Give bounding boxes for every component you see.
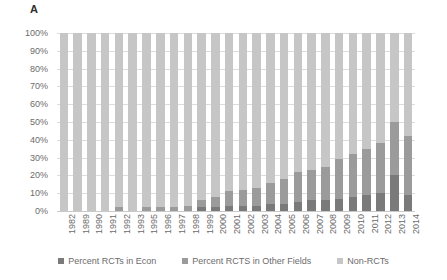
y-axis-tick: 20% <box>30 171 48 180</box>
x-axis-tick: 2014 <box>412 214 421 234</box>
bar-segment <box>211 207 220 211</box>
x-axis-tick-slot: 1999 <box>195 213 209 253</box>
bar-slot <box>332 33 346 211</box>
bar-segment <box>156 33 165 207</box>
x-axis-tick-slot: 2006 <box>291 213 305 253</box>
stacked-bar[interactable] <box>211 33 220 211</box>
stacked-bar[interactable] <box>376 33 385 211</box>
stacked-bar[interactable] <box>184 33 193 211</box>
bar-segment <box>349 33 358 154</box>
stacked-bar[interactable] <box>170 33 179 211</box>
bar-segment <box>142 33 151 207</box>
bar-segment <box>280 33 289 179</box>
stacked-bar[interactable] <box>197 33 206 211</box>
bar-slot <box>153 33 167 211</box>
y-axis-labels: 100%90%80%70%60%50%40%30%20%10%0% <box>0 33 53 211</box>
stacked-bar[interactable] <box>321 33 330 211</box>
stacked-bar[interactable] <box>390 33 399 211</box>
bar-segment <box>376 33 385 143</box>
bar-slot <box>181 33 195 211</box>
legend-label: Non-RCTs <box>347 256 389 266</box>
bar-segment <box>335 199 344 211</box>
stacked-bar[interactable] <box>115 33 124 211</box>
stacked-bar[interactable] <box>142 33 151 211</box>
bar-segment <box>252 206 261 211</box>
bar-segment <box>321 167 330 201</box>
x-axis-tick-slot: 2009 <box>332 213 346 253</box>
bar-segment <box>362 195 371 211</box>
x-axis-tick-slot: 1992 <box>112 213 126 253</box>
bar-segment <box>404 136 413 195</box>
stacked-bar[interactable] <box>73 33 82 211</box>
legend-item[interactable]: Non-RCTs <box>337 256 389 266</box>
bar-segment <box>239 33 248 190</box>
bar-slot <box>401 33 415 211</box>
bar-slot <box>85 33 99 211</box>
stacked-bar[interactable] <box>225 33 234 211</box>
bar-segment <box>197 33 206 200</box>
bar-segment <box>294 202 303 211</box>
bar-segment <box>390 175 399 211</box>
bar-slot <box>140 33 154 211</box>
stacked-bar[interactable] <box>87 33 96 211</box>
stacked-bar[interactable] <box>101 33 110 211</box>
stacked-bar[interactable] <box>128 33 137 211</box>
bar-segment <box>307 170 316 200</box>
x-axis-tick-slot: 1996 <box>153 213 167 253</box>
legend-swatch-icon <box>58 258 64 264</box>
stacked-bar[interactable] <box>252 33 261 211</box>
bar-segment <box>280 204 289 211</box>
bar-segment <box>404 33 413 136</box>
bar-segment <box>349 154 358 197</box>
panel-label: A <box>30 3 38 15</box>
bar-segment <box>376 193 385 211</box>
bar-slot <box>250 33 264 211</box>
bar-segment <box>142 207 151 211</box>
bar-slot <box>126 33 140 211</box>
bar-segment <box>280 179 289 204</box>
bar-segment <box>404 195 413 211</box>
stacked-bar[interactable] <box>362 33 371 211</box>
legend-item[interactable]: Percent RCTs in Econ <box>58 256 156 266</box>
stacked-bar[interactable] <box>404 33 413 211</box>
chart-legend: Percent RCTs in EconPercent RCTS in Othe… <box>0 256 447 266</box>
bar-segment <box>294 172 303 202</box>
bar-slot <box>167 33 181 211</box>
stacked-bar[interactable] <box>239 33 248 211</box>
stacked-bar[interactable] <box>60 33 69 211</box>
legend-item[interactable]: Percent RCTS in Other Fields <box>182 256 311 266</box>
bar-slot <box>208 33 222 211</box>
bar-slot <box>319 33 333 211</box>
x-axis-tick-slot: 2008 <box>319 213 333 253</box>
x-axis-tick-slot: 2011 <box>360 213 374 253</box>
stacked-bar[interactable] <box>307 33 316 211</box>
stacked-bar-chart: A 100%90%80%70%60%50%40%30%20%10%0% 1982… <box>0 0 447 280</box>
x-axis-tick-slot: 2002 <box>236 213 250 253</box>
bar-segment <box>335 159 344 198</box>
y-axis-tick: 100% <box>25 29 48 38</box>
stacked-bar[interactable] <box>349 33 358 211</box>
x-axis-tick-slot: 2012 <box>374 213 388 253</box>
stacked-bar[interactable] <box>156 33 165 211</box>
legend-swatch-icon <box>182 258 188 264</box>
bar-segment <box>307 33 316 170</box>
bar-segment <box>115 33 124 207</box>
bar-segment <box>184 33 193 206</box>
bar-segment <box>225 206 234 211</box>
stacked-bar[interactable] <box>266 33 275 211</box>
stacked-bar[interactable] <box>280 33 289 211</box>
bar-slot <box>360 33 374 211</box>
bar-segment <box>390 122 399 175</box>
bar-segment <box>170 207 179 211</box>
bar-segment <box>211 33 220 197</box>
x-axis-tick-slot: 2000 <box>208 213 222 253</box>
x-axis-tick-slot: 1998 <box>181 213 195 253</box>
y-axis-tick: 60% <box>30 100 48 109</box>
stacked-bar[interactable] <box>335 33 344 211</box>
y-axis-tick: 90% <box>30 46 48 55</box>
x-axis-tick-slot: 1991 <box>98 213 112 253</box>
stacked-bar[interactable] <box>294 33 303 211</box>
bar-segment <box>115 207 124 211</box>
y-axis-tick: 40% <box>30 135 48 144</box>
x-axis-tick-slot: 1990 <box>85 213 99 253</box>
